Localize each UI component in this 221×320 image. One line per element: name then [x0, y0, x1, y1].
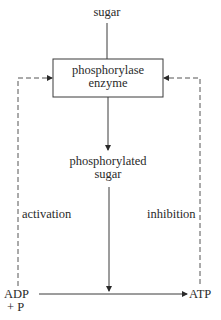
activation-label: activation [22, 208, 71, 221]
atp-label: ATP [189, 288, 211, 301]
sugar-label: sugar [87, 6, 127, 19]
adp-label: ADP + P [4, 288, 34, 314]
activation-dashed-arrow [18, 78, 52, 286]
adp-label-line2: + P [4, 301, 34, 314]
product-label-line2: sugar [58, 168, 158, 181]
inhibition-dashed-arrow [164, 78, 200, 284]
enzyme-label: phosphorylase enzyme [53, 64, 163, 90]
enzyme-label-line2: enzyme [53, 77, 163, 90]
product-label: phosphorylated sugar [58, 155, 158, 181]
inhibition-label: inhibition [147, 208, 196, 221]
